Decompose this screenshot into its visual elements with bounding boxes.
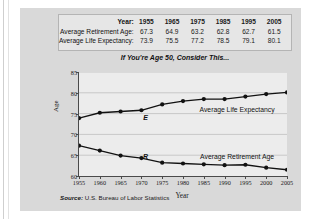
x-axis-tick-mark [183, 176, 184, 179]
table-cell: 62.8 [210, 27, 236, 37]
page-left-rule [3, 0, 4, 219]
data-table-box: Year: 1955 1965 1975 1985 1995 2005 Aver… [58, 14, 292, 51]
y-axis-tick-mark [76, 155, 79, 156]
table-body: Year: 1955 1965 1975 1985 1995 2005 Aver… [59, 17, 287, 46]
table-cell: 1955 [134, 17, 160, 27]
data-point [98, 149, 102, 153]
table-row-label: Year: [59, 17, 134, 27]
x-axis-tick-mark [204, 176, 205, 179]
page-left-rule-secondary [8, 0, 9, 219]
table-row: Average Life Expectancy: 73.9 75.5 77.2 … [59, 36, 287, 46]
series-label-1: Average Life Expectancy [200, 105, 275, 112]
chart-title: If You're Age 50, Consider This... [58, 54, 292, 61]
data-point [285, 90, 287, 94]
table-cell: 73.9 [134, 36, 160, 46]
table-cell: 1985 [210, 17, 236, 27]
data-point [139, 108, 143, 112]
source-note: Source: U.S. Bureau of Labor Statistics [60, 194, 169, 201]
x-axis-tick-mark [121, 176, 122, 179]
data-point [160, 102, 164, 106]
table-row-label: Average Life Expectancy: [59, 36, 134, 46]
figure-card: Year: 1955 1965 1975 1985 1995 2005 Aver… [20, 8, 301, 211]
data-point [264, 92, 268, 96]
x-axis-tick-label: 2005 [281, 179, 293, 186]
table-cell: 1975 [185, 17, 211, 27]
table-row-label: Average Retirement Age: [59, 27, 134, 37]
table-cell: 61.5 [261, 27, 287, 37]
data-point [98, 111, 102, 115]
table-cell: 77.2 [185, 36, 211, 46]
x-axis-tick-label: 1980 [177, 179, 189, 186]
x-axis-tick-label: 1985 [198, 179, 210, 186]
x-axis-tick-label: 1990 [218, 179, 230, 186]
source-text: U.S. Bureau of Labor Statistics [83, 194, 169, 201]
data-point [223, 163, 227, 167]
chart-plot-wrapper: Age Year 6065707580851955196019651970197… [56, 64, 294, 186]
y-axis-tick-mark [76, 114, 79, 115]
x-axis-tick-mark [225, 176, 226, 179]
table-cell: 67.3 [134, 27, 160, 37]
x-axis-tick-label: 1965 [114, 179, 126, 186]
series-tag-r: R [143, 152, 148, 159]
x-axis-tick-mark [79, 176, 80, 179]
data-point [223, 97, 227, 101]
data-point [79, 144, 81, 148]
table-cell: 79.1 [236, 36, 262, 46]
data-point [243, 163, 247, 167]
y-axis-tick-mark [76, 93, 79, 94]
x-axis-tick-mark [287, 176, 288, 179]
x-axis-tick-mark [266, 176, 267, 179]
series-label-2: Average Retirement Age [200, 152, 274, 159]
data-point [202, 97, 206, 101]
data-point [202, 162, 206, 166]
table-row: Average Retirement Age: 67.3 64.9 63.2 6… [59, 27, 287, 37]
y-axis-tick-mark [76, 134, 79, 135]
summary-data-table: Year: 1955 1965 1975 1985 1995 2005 Aver… [59, 17, 287, 46]
table-cell: 75.5 [159, 36, 185, 46]
x-axis-tick-mark [245, 176, 246, 179]
data-point [181, 161, 185, 165]
x-axis-tick-label: 1970 [135, 179, 147, 186]
x-axis-tick-label: 1955 [73, 179, 85, 186]
series-tag-e: E [143, 113, 148, 120]
x-axis-tick-label: 1975 [156, 179, 168, 186]
y-axis-tick-mark [76, 72, 79, 73]
data-point [181, 99, 185, 103]
table-cell: 2005 [261, 17, 287, 27]
source-label: Source: [60, 194, 83, 201]
chart-canvas [79, 72, 287, 176]
x-axis-tick-label: 1960 [94, 179, 106, 186]
table-row: Year: 1955 1965 1975 1985 1995 2005 [59, 17, 287, 27]
table-cell: 78.5 [210, 36, 236, 46]
x-axis-tick-mark [141, 176, 142, 179]
x-axis-tick-label: 1995 [239, 179, 251, 186]
x-axis-tick-label: 2000 [260, 179, 272, 186]
table-cell: 1995 [236, 17, 262, 27]
plot-area: 6065707580851955196019651970197519801985… [78, 72, 287, 177]
y-axis-label: Age [52, 100, 60, 112]
data-point [243, 94, 247, 98]
table-cell: 63.2 [185, 27, 211, 37]
data-point [264, 166, 268, 170]
x-axis-tick-mark [162, 176, 163, 179]
data-point [119, 109, 123, 113]
table-cell: 80.1 [261, 36, 287, 46]
data-point [119, 154, 123, 158]
table-cell: 1965 [159, 17, 185, 27]
table-cell: 64.9 [159, 27, 185, 37]
data-point [79, 116, 81, 120]
data-point [160, 161, 164, 165]
table-cell: 62.7 [236, 27, 262, 37]
data-point [285, 168, 287, 172]
x-axis-tick-mark [100, 176, 101, 179]
